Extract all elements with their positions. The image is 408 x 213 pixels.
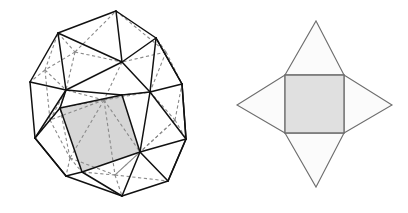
geometry-figure <box>0 0 408 213</box>
figure-root <box>0 0 408 213</box>
net-central-square <box>285 75 344 133</box>
